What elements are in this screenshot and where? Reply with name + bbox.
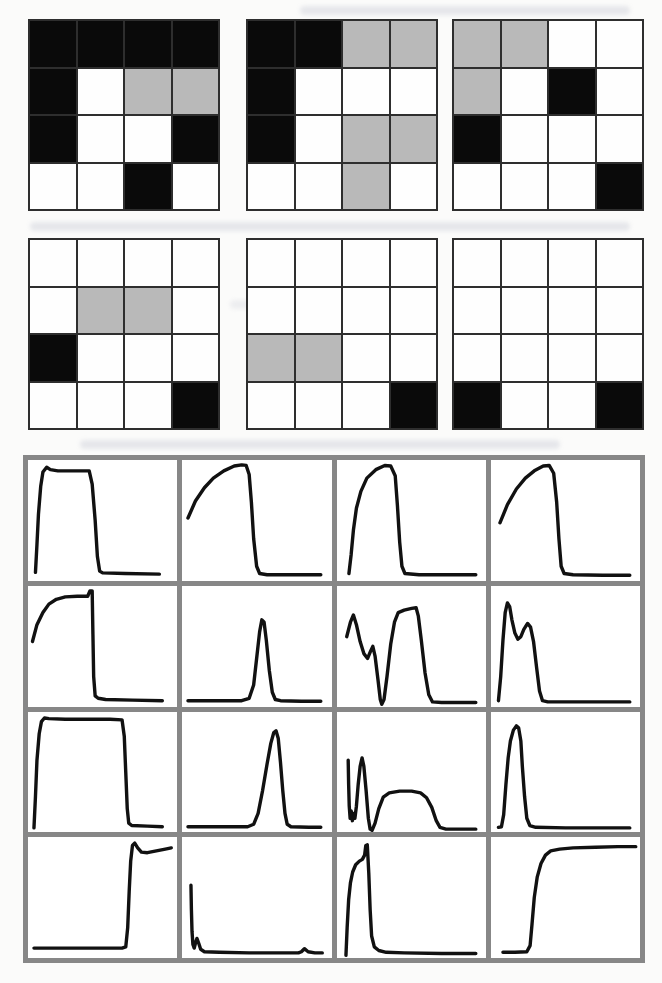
- grid-cell-white: [549, 164, 595, 210]
- grid-cell-white: [343, 288, 389, 334]
- grid-cell-white: [248, 288, 294, 334]
- response-curve-r3c1: [28, 712, 177, 833]
- response-plot-r4c4: [491, 837, 640, 958]
- grid-cell-white: [549, 335, 595, 381]
- response-plot-r1c2: [182, 460, 331, 581]
- grid-cell-gray: [343, 164, 389, 210]
- grid-cell-white: [597, 288, 643, 334]
- grid-cell-gray: [296, 335, 342, 381]
- scanned-figure-page: [0, 0, 662, 983]
- grid-cell-black: [549, 69, 595, 115]
- grid-cell-white: [248, 164, 294, 210]
- response-curve-r2c4: [491, 586, 640, 707]
- grid-cell-white: [502, 69, 548, 115]
- response-curve-r2c3: [337, 586, 486, 707]
- grid-cell-white: [30, 164, 76, 210]
- response-curve-r3c3: [337, 712, 486, 833]
- grid-cell-white: [549, 240, 595, 286]
- response-curve-r3c2: [182, 712, 331, 833]
- grid-cell-white: [125, 383, 171, 429]
- pattern-grid-2: [246, 19, 438, 211]
- curve-path: [188, 620, 321, 702]
- pattern-grid-3: [452, 19, 644, 211]
- grid-cell-white: [502, 335, 548, 381]
- grid-cell-white: [296, 240, 342, 286]
- grid-cell-black: [125, 21, 171, 67]
- grid-cell-black: [173, 21, 219, 67]
- grid-cell-white: [296, 164, 342, 210]
- grid-cell-black: [30, 69, 76, 115]
- grid-cell-black: [30, 335, 76, 381]
- grid-cell-black: [454, 383, 500, 429]
- grid-cell-gray: [125, 69, 171, 115]
- curve-path: [498, 603, 629, 702]
- pattern-grid-5: [246, 238, 438, 430]
- curve-path: [191, 886, 322, 954]
- grid-cell-gray: [125, 288, 171, 334]
- grid-cell-white: [78, 69, 124, 115]
- response-plot-r1c3: [337, 460, 486, 581]
- response-curve-r3c4: [491, 712, 640, 833]
- grid-cell-black: [597, 164, 643, 210]
- grid-cell-black: [454, 116, 500, 162]
- curve-path: [188, 730, 321, 827]
- grid-cell-white: [125, 116, 171, 162]
- grid-cell-black: [597, 383, 643, 429]
- grid-cell-gray: [248, 335, 294, 381]
- grid-cell-black: [173, 116, 219, 162]
- grid-cell-white: [597, 21, 643, 67]
- response-curve-r4c1: [28, 837, 177, 958]
- grid-cell-white: [343, 69, 389, 115]
- grid-cell-gray: [454, 21, 500, 67]
- grid-cell-white: [597, 240, 643, 286]
- response-plot-r3c4: [491, 712, 640, 833]
- response-plot-r2c2: [182, 586, 331, 707]
- grid-cell-white: [296, 69, 342, 115]
- grid-cell-white: [549, 21, 595, 67]
- grid-cell-white: [30, 383, 76, 429]
- curve-path: [35, 467, 159, 574]
- grid-cell-white: [78, 164, 124, 210]
- grid-cell-black: [391, 383, 437, 429]
- grid-cell-white: [502, 164, 548, 210]
- grid-cell-black: [30, 21, 76, 67]
- grid-cell-white: [391, 164, 437, 210]
- response-plot-r3c3: [337, 712, 486, 833]
- response-plot-r3c1: [28, 712, 177, 833]
- response-curve-r2c2: [182, 586, 331, 707]
- grid-cell-white: [597, 69, 643, 115]
- grid-cell-white: [78, 383, 124, 429]
- grid-cell-white: [502, 116, 548, 162]
- grid-cell-white: [549, 288, 595, 334]
- grid-cell-white: [30, 288, 76, 334]
- grid-cell-white: [78, 335, 124, 381]
- grid-cell-white: [173, 288, 219, 334]
- grid-cell-white: [502, 288, 548, 334]
- grid-cell-white: [454, 288, 500, 334]
- curve-path: [498, 725, 629, 827]
- grid-cell-white: [549, 383, 595, 429]
- grid-cell-black: [248, 69, 294, 115]
- grid-cell-white: [391, 69, 437, 115]
- response-curve-r1c4: [491, 460, 640, 581]
- curve-path: [34, 718, 162, 828]
- response-plot-r2c4: [491, 586, 640, 707]
- curve-path: [32, 591, 162, 701]
- grid-cell-white: [125, 240, 171, 286]
- response-curve-r1c3: [337, 460, 486, 581]
- response-curve-r2c1: [28, 586, 177, 707]
- curve-path: [34, 843, 171, 948]
- response-plot-r4c1: [28, 837, 177, 958]
- grid-cell-black: [248, 21, 294, 67]
- response-plots-section: [23, 455, 645, 963]
- grid-cell-white: [296, 116, 342, 162]
- response-curve-r4c2: [182, 837, 331, 958]
- grid-cell-black: [30, 116, 76, 162]
- grid-cell-white: [173, 240, 219, 286]
- response-plot-r4c2: [182, 837, 331, 958]
- grid-cell-white: [296, 288, 342, 334]
- curve-path: [503, 847, 636, 953]
- response-plot-r2c3: [337, 586, 486, 707]
- grid-cell-white: [549, 116, 595, 162]
- grid-cell-white: [296, 383, 342, 429]
